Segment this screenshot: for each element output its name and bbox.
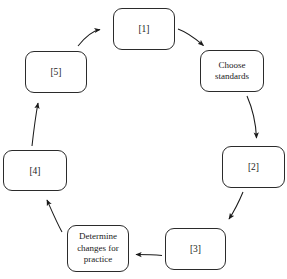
node-choose-standards[interactable]: Choose standards: [200, 50, 264, 92]
node-1-label: [1]: [135, 23, 152, 35]
node-4-label: [4]: [26, 165, 43, 177]
arrow-2-to-3: [229, 192, 243, 219]
node-determine-changes-label: Determine changes for practice: [74, 231, 122, 266]
node-3[interactable]: [3]: [165, 228, 226, 270]
arrow-3-to-determine-changes: [136, 255, 162, 256]
node-5[interactable]: [5]: [25, 51, 87, 93]
arrow-4-to-5: [32, 103, 38, 146]
arrow-5-to-1: [78, 30, 100, 47]
node-choose-standards-label: Choose standards: [212, 60, 252, 83]
arrow-choose-standards-to-2: [247, 96, 257, 138]
node-1[interactable]: [1]: [113, 8, 175, 50]
node-determine-changes[interactable]: Determine changes for practice: [67, 225, 129, 272]
node-3-label: [3]: [187, 243, 204, 255]
cycle-diagram: [1] Choose standards [2] [3] Determine c…: [0, 0, 287, 279]
arrow-determine-changes-to-4: [47, 200, 62, 232]
arrow-1-to-choose-standards: [178, 29, 204, 46]
node-5-label: [5]: [47, 66, 64, 78]
node-2[interactable]: [2]: [222, 146, 285, 188]
node-2-label: [2]: [245, 161, 262, 173]
node-4[interactable]: [4]: [3, 150, 67, 191]
